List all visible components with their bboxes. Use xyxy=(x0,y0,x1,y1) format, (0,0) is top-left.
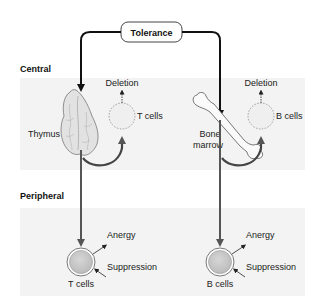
thymus-label: Thymus xyxy=(28,129,61,139)
central-t-cell-label: T cells xyxy=(137,111,163,121)
bone-marrow-label-line1: Bone xyxy=(199,129,220,139)
central-t-cell xyxy=(109,103,135,129)
b-anergy-label: Anergy xyxy=(246,230,275,240)
central-label: Central xyxy=(20,64,51,74)
peripheral-b-cell-label: B cells xyxy=(207,279,234,289)
b-suppression-label: Suppression xyxy=(246,262,296,272)
bone-marrow-label-2: marrow xyxy=(193,140,224,150)
t-suppression-label: Suppression xyxy=(107,262,157,272)
tolerance-diagram: Central Peripheral Tolerance Thymus Bone… xyxy=(0,0,319,308)
tolerance-label: Tolerance xyxy=(131,28,173,38)
central-b-cell xyxy=(248,103,274,129)
tolerance-box: Tolerance xyxy=(121,22,182,42)
bone-marrow-label: Bone xyxy=(199,129,220,139)
t-deletion-label: Deletion xyxy=(105,78,138,88)
peripheral-b-cell xyxy=(206,248,234,276)
peripheral-t-cell xyxy=(67,248,95,276)
t-anergy-label: Anergy xyxy=(107,230,136,240)
central-b-cell-label: B cells xyxy=(276,111,303,121)
peripheral-label: Peripheral xyxy=(20,191,64,201)
b-deletion-label: Deletion xyxy=(244,78,277,88)
peripheral-t-cell-label: T cells xyxy=(68,279,94,289)
peripheral-band xyxy=(20,208,305,296)
